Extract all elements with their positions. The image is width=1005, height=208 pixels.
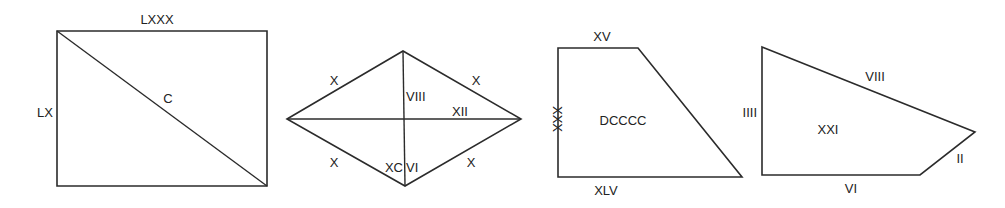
quadrilateral-outline xyxy=(762,47,975,175)
figure-quadrilateral: IIII VIII II VI XXI xyxy=(743,47,975,196)
rhombus-horizontal-diagonal-label: XII xyxy=(452,104,468,119)
figure-trapezoid: XV XXX XLV DCCCC xyxy=(550,29,742,198)
rhombus-vertical-diagonal-label: VIII xyxy=(406,89,426,104)
quadrilateral-short-right-label: II xyxy=(956,151,963,166)
figure-rhombus: X X X X VIII XII XC VI xyxy=(287,51,521,186)
trapezoid-bottom-label: XLV xyxy=(594,183,618,198)
rhombus-area-label-right: VI xyxy=(406,160,418,175)
trapezoid-outline xyxy=(558,48,742,177)
rhombus-bottom-left-side-label: X xyxy=(330,155,339,170)
trapezoid-top-label: XV xyxy=(593,29,611,44)
figure-rectangle: LXXX LX C xyxy=(37,12,267,186)
quadrilateral-area-label: XXI xyxy=(818,122,839,137)
quadrilateral-left-label: IIII xyxy=(743,105,757,120)
geometry-figures-svg: LXXX LX C X X X X VIII XII XC VI XV XXX … xyxy=(0,0,1005,208)
rectangle-diagonal xyxy=(57,31,267,186)
quadrilateral-bottom-label: VI xyxy=(845,181,857,196)
rhombus-vertical-diagonal xyxy=(403,51,405,186)
rhombus-top-right-side-label: X xyxy=(472,73,481,88)
rectangle-top-label: LXXX xyxy=(140,12,174,27)
trapezoid-left-label: XXX xyxy=(550,106,565,132)
trapezoid-area-label: DCCCC xyxy=(600,113,647,128)
rectangle-left-label: LX xyxy=(37,105,53,120)
rhombus-top-left-side-label: X xyxy=(330,73,339,88)
rectangle-diagonal-label: C xyxy=(163,91,172,106)
diagram-canvas: LXXX LX C X X X X VIII XII XC VI XV XXX … xyxy=(0,0,1005,208)
rhombus-area-label-left: XC xyxy=(385,160,403,175)
rhombus-bottom-right-side-label: X xyxy=(467,155,476,170)
quadrilateral-slanted-top-label: VIII xyxy=(865,69,885,84)
